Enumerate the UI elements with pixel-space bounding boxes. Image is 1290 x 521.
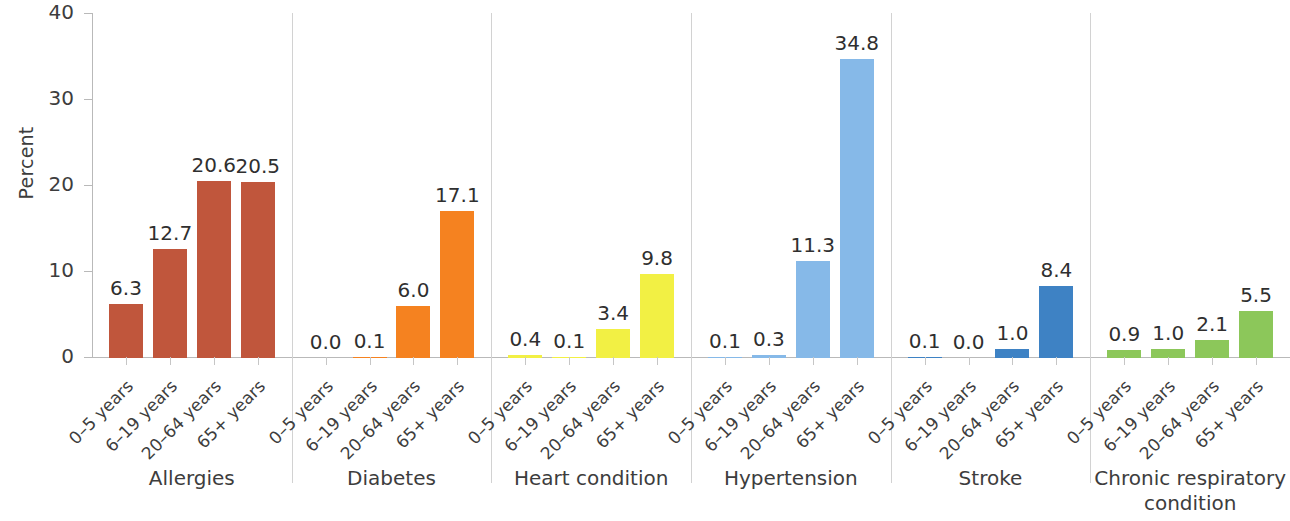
bar-value-label: 20.5: [223, 154, 293, 178]
y-tick-label: 10: [14, 258, 74, 282]
bar-value-label: 6.3: [91, 276, 161, 300]
bar: [440, 211, 474, 358]
bar-value-label: 6.0: [378, 278, 448, 302]
bar-value-label: 34.8: [822, 31, 892, 55]
y-tick-label: 30: [14, 86, 74, 110]
group-label-line: Diabetes: [292, 466, 492, 491]
x-tick-mark: [214, 357, 215, 365]
x-tick-mark: [813, 357, 814, 365]
group-label-line: Chronic respiratory: [1090, 466, 1290, 491]
x-tick-mark: [613, 357, 614, 365]
x-tick-mark: [569, 357, 570, 365]
bar: [1239, 311, 1273, 358]
group-label: Allergies: [92, 466, 292, 491]
y-axis-title: Percent: [15, 93, 37, 233]
bar-chart: Percent 010203040 6.312.720.620.50.00.16…: [0, 0, 1290, 521]
x-tick-mark: [1012, 357, 1013, 365]
bar: [241, 182, 275, 358]
x-tick-mark: [126, 357, 127, 365]
y-tick-label: 20: [14, 172, 74, 196]
x-tick-mark: [413, 357, 414, 365]
x-tick-mark: [525, 357, 526, 365]
bar-value-label: 17.1: [422, 183, 492, 207]
x-tick-mark: [370, 357, 371, 365]
bar-value-label: 11.3: [778, 233, 848, 257]
bar: [840, 59, 874, 358]
group-label-line: Heart condition: [491, 466, 691, 491]
group-label-line: Hypertension: [691, 466, 891, 491]
bar: [596, 329, 630, 358]
group-label-line: condition: [1090, 491, 1290, 516]
x-tick-mark: [769, 357, 770, 365]
x-tick-mark: [258, 357, 259, 365]
bar: [796, 261, 830, 358]
x-tick-mark: [1124, 357, 1125, 365]
bar-value-label: 0.3: [734, 327, 804, 351]
group-label-line: Stroke: [891, 466, 1091, 491]
x-tick-mark: [725, 357, 726, 365]
bar-value-label: 0.1: [335, 329, 405, 353]
bar-value-label: 8.4: [1021, 258, 1091, 282]
bar-value-label: 12.7: [135, 221, 205, 245]
bar: [197, 181, 231, 358]
x-tick-mark: [925, 357, 926, 365]
bar: [640, 274, 674, 358]
y-tick-label: 40: [14, 0, 74, 24]
plot-area: 6.312.720.620.50.00.16.017.10.40.13.49.8…: [92, 13, 1290, 358]
group-label: Stroke: [891, 466, 1091, 491]
x-tick-mark: [1212, 357, 1213, 365]
bar: [1039, 286, 1073, 358]
bar: [153, 249, 187, 358]
x-tick-mark: [857, 357, 858, 365]
bar-value-label: 0.1: [534, 329, 604, 353]
x-tick-mark: [457, 357, 458, 365]
bar-value-label: 1.0: [977, 321, 1047, 345]
x-tick-mark: [326, 357, 327, 365]
group-label: Heart condition: [491, 466, 691, 491]
group-label: Hypertension: [691, 466, 891, 491]
bar-value-label: 9.8: [622, 246, 692, 270]
bar-value-label: 5.5: [1221, 283, 1290, 307]
y-tick-label: 0: [14, 344, 74, 368]
x-tick-mark: [170, 357, 171, 365]
bar: [1195, 340, 1229, 358]
bar: [109, 304, 143, 358]
x-tick-mark: [1168, 357, 1169, 365]
bar: [396, 306, 430, 358]
x-tick-mark: [657, 357, 658, 365]
group-label-line: Allergies: [92, 466, 292, 491]
x-tick-mark: [1256, 357, 1257, 365]
group-label: Chronic respiratorycondition: [1090, 466, 1290, 516]
bar-value-label: 2.1: [1177, 312, 1247, 336]
group-label: Diabetes: [292, 466, 492, 491]
bar-value-label: 3.4: [578, 301, 648, 325]
x-tick-mark: [1056, 357, 1057, 365]
x-tick-mark: [969, 357, 970, 365]
